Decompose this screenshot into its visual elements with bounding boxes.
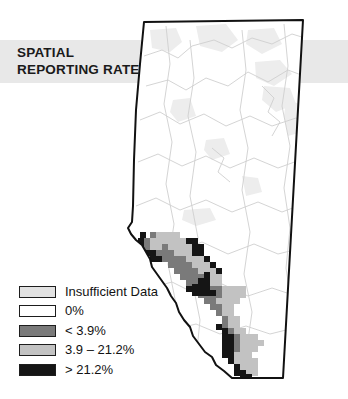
legend-item-insufficient-data: Insufficient Data: [19, 282, 158, 302]
legend-label-zero-percent: 0%: [65, 304, 84, 318]
legend-label-under-3-9: < 3.9%: [65, 324, 106, 338]
legend-item-zero-percent: 0%: [19, 302, 158, 322]
legend-item-3-9-to-21-2: 3.9 – 21.2%: [19, 341, 158, 361]
legend-swatch-zero-percent: [19, 305, 56, 317]
legend-label-over-21-2: > 21.2%: [65, 363, 113, 377]
legend-swatch-3-9-to-21-2: [19, 344, 56, 356]
map-legend: Insufficient Data 0% < 3.9% 3.9 – 21.2% …: [19, 282, 158, 380]
legend-swatch-under-3-9: [19, 325, 56, 337]
banner-line-1: SPATIAL: [17, 45, 74, 60]
legend-label-3-9-to-21-2: 3.9 – 21.2%: [65, 343, 134, 357]
legend-swatch-over-21-2: [19, 364, 56, 376]
page-title: SPATIALREPORTING RATE: [17, 44, 140, 78]
legend-swatch-insufficient-data: [19, 286, 56, 298]
legend-item-over-21-2: > 21.2%: [19, 360, 158, 380]
legend-label-insufficient-data: Insufficient Data: [65, 285, 158, 299]
spatial-reporting-rate-figure: SPATIALREPORTING RATE Insufficient Data …: [0, 0, 348, 399]
banner-line-2: REPORTING RATE: [17, 62, 140, 77]
legend-item-under-3-9: < 3.9%: [19, 321, 158, 341]
